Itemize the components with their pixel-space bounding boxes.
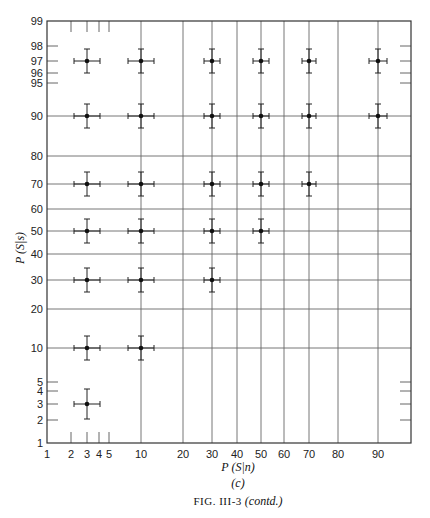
x-tick-label: 90 [372,448,384,460]
plot-frame [47,21,411,443]
y-axis-label: P (S|s) [13,232,27,265]
data-point [259,182,264,187]
x-tick-label: 10 [135,448,147,460]
data-point [139,346,144,351]
data-point [85,114,90,119]
data-point [210,229,215,234]
x-tick-label: 2 [68,448,74,460]
y-tick-label: 60 [31,203,43,215]
data-point [139,182,144,187]
x-tick-label: 50 [255,448,267,460]
data-point [139,114,144,119]
x-tick-label: 80 [332,448,344,460]
data-point [259,59,264,64]
data-point [376,114,381,119]
x-tick-label: 20 [177,448,189,460]
y-tick-label: 3 [37,398,43,410]
y-tick-label: 2 [37,414,43,426]
figure-caption: FIG. III-3 (contd.) [193,494,282,508]
data-point [85,278,90,283]
y-tick-label: 40 [31,248,43,260]
roc-chart: 1234510203040506070809012345102030405060… [0,0,430,518]
data-point [139,229,144,234]
grid-lines [47,21,411,443]
data-point [307,182,312,187]
y-tick-label: 30 [31,274,43,286]
data-point [85,59,90,64]
y-tick-label: 96 [31,67,43,79]
data-point [139,278,144,283]
y-tick-label: 20 [31,303,43,315]
y-tick-label: 10 [31,342,43,354]
data-point [210,114,215,119]
x-tick-label: 40 [231,448,243,460]
data-point [139,59,144,64]
x-tick-label: 5 [106,448,112,460]
data-point [85,402,90,407]
x-tick-label: 1 [44,448,50,460]
tick-labels: 1234510203040506070809012345102030405060… [31,15,384,460]
data-point [85,182,90,187]
y-tick-label: 98 [31,40,43,52]
data-point [210,182,215,187]
data-point [376,59,381,64]
data-point [85,229,90,234]
caption-prefix: FIG. III-3 [193,495,241,507]
y-tick-label: 50 [31,225,43,237]
y-tick-label: 99 [31,15,43,27]
x-tick-label: 3 [84,448,90,460]
data-points [74,49,387,419]
y-tick-label: 70 [31,178,43,190]
data-point [85,346,90,351]
data-point [259,229,264,234]
data-point [210,278,215,283]
caption-suffix: (contd.) [245,494,283,508]
x-tick-label: 4 [96,448,102,460]
y-tick-label: 90 [31,110,43,122]
axis-ticks [47,21,411,443]
data-point [307,59,312,64]
x-tick-label: 70 [303,448,315,460]
data-point [259,114,264,119]
y-tick-label: 80 [31,150,43,162]
data-point [210,59,215,64]
y-tick-label: 97 [31,55,43,67]
y-tick-label: 1 [37,437,43,449]
x-tick-label: 60 [278,448,290,460]
x-axis-label: P (S|n) [220,460,254,474]
data-point [307,114,312,119]
y-tick-label: 5 [37,376,43,388]
subcaption: (c) [231,476,244,490]
x-tick-label: 30 [206,448,218,460]
